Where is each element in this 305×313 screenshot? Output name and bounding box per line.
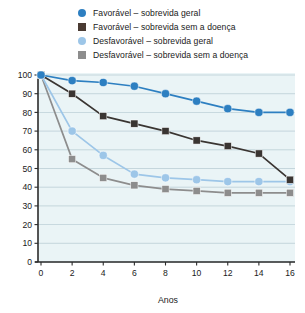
data-point-marker [161, 90, 169, 98]
y-tick-label: 0 [27, 257, 32, 267]
y-tick-label: 20 [22, 220, 32, 230]
x-tick-label: 4 [101, 268, 106, 278]
data-point-marker [286, 108, 294, 116]
y-tick-label: 90 [22, 89, 32, 99]
data-point-marker [69, 90, 76, 97]
data-point-marker [193, 176, 201, 184]
x-tick-label: 0 [39, 268, 44, 278]
x-tick-label: 16 [285, 268, 295, 278]
data-point-marker [224, 142, 231, 149]
data-point-marker [69, 156, 76, 163]
data-point-marker [255, 150, 262, 157]
data-point-marker [255, 189, 262, 196]
x-tick-label: 2 [70, 268, 75, 278]
y-tick-label: 40 [22, 182, 32, 192]
data-point-marker [37, 71, 45, 79]
x-tick-label: 10 [192, 268, 202, 278]
y-tick-label: 80 [22, 108, 32, 118]
survival-curve-chart: Favorável – sobrevida geral Favorável – … [0, 0, 305, 313]
x-tick-label: 6 [132, 268, 137, 278]
data-point-marker [68, 127, 76, 135]
data-point-marker [286, 176, 293, 183]
x-tick-label: 8 [163, 268, 168, 278]
data-point-marker [68, 77, 76, 85]
data-point-marker [193, 97, 201, 105]
data-point-marker [99, 78, 107, 86]
plot-background [38, 73, 295, 262]
data-point-marker [161, 174, 169, 182]
data-point-marker [286, 189, 293, 196]
data-point-marker [255, 177, 263, 185]
data-point-marker [100, 174, 107, 181]
y-tick-label: 100 [18, 70, 33, 80]
x-tick-label: 12 [223, 268, 233, 278]
x-tick-label: 14 [254, 268, 264, 278]
data-point-marker [130, 170, 138, 178]
data-point-marker [193, 137, 200, 144]
data-point-marker [130, 82, 138, 90]
x-axis-title: Anos [158, 295, 179, 305]
y-tick-label: 70 [22, 126, 32, 136]
data-point-marker [131, 182, 138, 189]
plot-area: 01020304050607080901000246810121416 Anos [0, 0, 305, 313]
y-tick-label: 50 [22, 164, 32, 174]
y-tick-label: 30 [22, 201, 32, 211]
y-tick-label: 10 [22, 238, 32, 248]
data-point-marker [100, 113, 107, 120]
data-point-marker [224, 189, 231, 196]
data-point-marker [224, 177, 232, 185]
data-point-marker [162, 128, 169, 135]
data-point-marker [162, 185, 169, 192]
data-point-marker [131, 120, 138, 127]
data-point-marker [193, 187, 200, 194]
y-tick-label: 60 [22, 145, 32, 155]
data-point-marker [99, 151, 107, 159]
data-point-marker [224, 105, 232, 113]
data-point-marker [255, 108, 263, 116]
